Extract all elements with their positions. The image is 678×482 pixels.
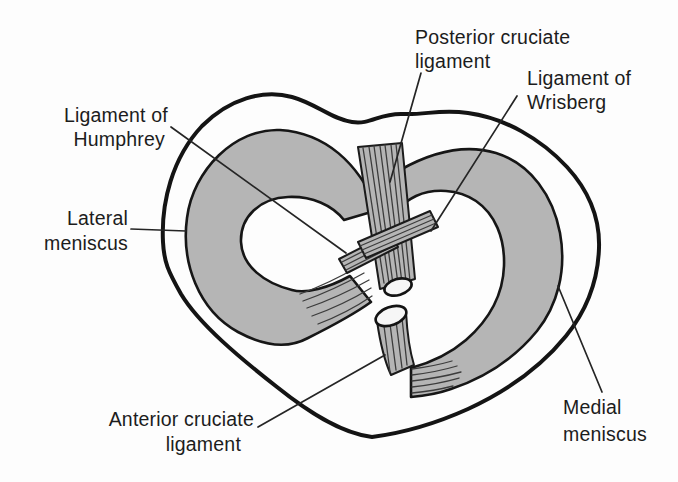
label-posterior-cruciate-line2: ligament <box>415 50 491 72</box>
anatomy-diagram-knee-menisci: Posterior cruciate ligament Ligament of … <box>0 0 678 482</box>
label-lateral-meniscus: Lateral meniscus <box>44 207 128 254</box>
label-lateral-meniscus-line1: Lateral <box>67 207 128 229</box>
label-anterior-cruciate-ligament: Anterior cruciate ligament <box>109 408 254 455</box>
label-posterior-cruciate-ligament: Posterior cruciate ligament <box>415 26 570 72</box>
label-anterior-cruciate-line2: ligament <box>166 433 242 455</box>
label-lateral-meniscus-line2: meniscus <box>44 232 128 254</box>
label-medial-meniscus-line1: Medial <box>563 396 622 418</box>
label-humphrey-line2: Humphrey <box>73 128 165 150</box>
label-anterior-cruciate-line1: Anterior cruciate <box>109 408 254 430</box>
label-medial-meniscus-line2: meniscus <box>563 423 647 445</box>
diagram-canvas: Posterior cruciate ligament Ligament of … <box>0 0 678 482</box>
label-humphrey-line1: Ligament of <box>64 104 168 126</box>
label-medial-meniscus: Medial meniscus <box>563 396 647 445</box>
label-posterior-cruciate-line1: Posterior cruciate <box>415 26 570 48</box>
label-ligament-of-wrisberg: Ligament of Wrisberg <box>527 67 631 113</box>
label-wrisberg-line2: Wrisberg <box>527 91 606 113</box>
label-ligament-of-humphrey: Ligament of Humphrey <box>64 104 168 150</box>
label-wrisberg-line1: Ligament of <box>527 67 631 89</box>
